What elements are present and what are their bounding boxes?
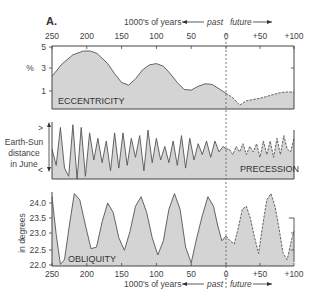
arrow-left-icon bbox=[182, 20, 187, 24]
panel-title: ECCENTRICITY bbox=[58, 96, 125, 106]
panel-title: OBLIQUITY bbox=[68, 254, 116, 264]
eccentricity-panel: ECCENTRICITY531% bbox=[26, 42, 294, 109]
axis-title-bottom: 1000's of years bbox=[124, 279, 181, 289]
y-axis-label: in June bbox=[10, 159, 38, 169]
y-axis-label: % bbox=[26, 63, 34, 73]
x-tick-label: +50 bbox=[253, 31, 268, 41]
obliquity-panel: OBLIQUITY24.023.523.022.522.0in degrees bbox=[17, 192, 294, 270]
future-label: future bbox=[230, 17, 252, 27]
y-tick-label: 22.5 bbox=[29, 245, 46, 255]
y-tick-label: 24.0 bbox=[29, 198, 46, 208]
y-tick-label: 5 bbox=[41, 42, 46, 52]
y-tick-label: < bbox=[38, 165, 43, 175]
future-label-bottom: future bbox=[230, 279, 252, 289]
x-tick-label: 250 bbox=[45, 269, 59, 279]
x-tick-label: +100 bbox=[284, 31, 303, 41]
x-tick-label: 100 bbox=[149, 31, 163, 41]
axis-title: 1000's of years bbox=[124, 17, 181, 27]
x-tick-label: +50 bbox=[253, 269, 268, 279]
x-tick-label: 150 bbox=[115, 269, 129, 279]
figure-label: A. bbox=[46, 15, 57, 27]
y-tick-label: 22.0 bbox=[29, 260, 46, 270]
y-tick-label: 23.0 bbox=[29, 228, 46, 238]
x-tick-label: +100 bbox=[284, 269, 303, 279]
arrow-up-icon bbox=[47, 122, 51, 127]
arrow-right-icon bbox=[267, 282, 272, 286]
bottom-x-tick-labels: 250200150100500+50+100 bbox=[45, 269, 304, 279]
x-tick-label: 150 bbox=[115, 31, 129, 41]
x-tick-label: 200 bbox=[80, 269, 94, 279]
y-axis-label: in degrees bbox=[17, 213, 27, 253]
panel-title: PRECESSION bbox=[240, 164, 299, 174]
y-axis-label: distance bbox=[8, 148, 40, 158]
precession-panel: PRECESSION><Earth-Sundistancein June bbox=[5, 122, 299, 179]
top-axis-title: 1000's of years past future bbox=[124, 17, 272, 27]
arrow-right-icon bbox=[267, 20, 272, 24]
arrow-left-icon bbox=[182, 282, 187, 286]
top-x-tick-labels: 250200150100500+50+100 bbox=[45, 31, 304, 41]
past-label-bottom: past bbox=[206, 279, 224, 289]
y-tick-label: 3 bbox=[41, 63, 46, 73]
x-tick-label: 100 bbox=[149, 269, 163, 279]
bottom-axis-title: 1000's of years past future bbox=[124, 279, 272, 289]
x-tick-label: 200 bbox=[80, 31, 94, 41]
y-tick-label: 1 bbox=[41, 86, 46, 96]
y-tick-label: > bbox=[38, 123, 43, 133]
y-axis-label: Earth-Sun bbox=[5, 137, 44, 147]
x-tick-label: 250 bbox=[45, 31, 59, 41]
x-tick-label: 50 bbox=[186, 269, 196, 279]
arrow-down-icon bbox=[47, 167, 51, 172]
past-label: past bbox=[206, 17, 224, 27]
milankovitch-cycles-chart: A. 1000's of years past future 250200150… bbox=[0, 0, 311, 302]
x-tick-label: 50 bbox=[186, 31, 196, 41]
y-tick-label: 23.5 bbox=[29, 213, 46, 223]
